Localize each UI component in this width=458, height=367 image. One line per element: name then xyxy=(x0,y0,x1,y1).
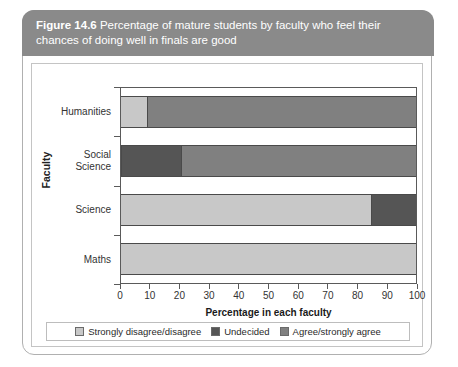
x-axis-tick-labels: 0102030405060708090100 xyxy=(120,290,417,304)
y-axis-label-social-science: SocialScience xyxy=(32,145,118,177)
figure-caption-banner: Figure 14.6 Percentage of mature student… xyxy=(22,10,434,56)
x-tick-label-90: 90 xyxy=(382,290,393,301)
bar-segment-science-series-0 xyxy=(121,195,371,225)
x-axis-title: Percentage in each faculty xyxy=(120,307,417,318)
bar-segment-humanities-series-2 xyxy=(147,97,416,127)
y-axis-label-science: Science xyxy=(32,194,118,226)
chart-container: Faculty Humanities SocialScience Science… xyxy=(31,63,423,347)
bar-humanities xyxy=(121,96,416,128)
x-tick-label-100: 100 xyxy=(409,290,426,301)
bar-segment-maths-series-0 xyxy=(121,244,416,274)
x-tick-label-80: 80 xyxy=(352,290,363,301)
bar-segment-social-science-series-1 xyxy=(121,146,181,176)
bar-maths xyxy=(121,243,416,275)
bar-segment-humanities-series-0 xyxy=(121,97,147,127)
legend-item-2: Agree/strongly agree xyxy=(280,326,381,337)
legend-label-1: Undecided xyxy=(224,326,269,337)
legend-swatch-icon-0 xyxy=(75,327,84,336)
legend-label-2: Agree/strongly agree xyxy=(293,326,381,337)
x-tick-60 xyxy=(298,284,299,289)
bar-social-science xyxy=(121,145,416,177)
x-tick-70 xyxy=(327,284,328,289)
x-tick-10 xyxy=(149,284,150,289)
bar-segment-science-series-1 xyxy=(371,195,416,225)
legend-item-0: Strongly disagree/disagree xyxy=(75,326,201,337)
x-tick-50 xyxy=(268,284,269,289)
chart-legend: Strongly disagree/disagreeUndecidedAgree… xyxy=(46,322,410,341)
figure-number: Figure 14.6 xyxy=(36,19,97,31)
x-tick-30 xyxy=(209,284,210,289)
x-tick-label-30: 30 xyxy=(204,290,215,301)
x-tick-20 xyxy=(179,284,180,289)
legend-item-1: Undecided xyxy=(211,326,269,337)
legend-swatch-icon-1 xyxy=(211,327,220,336)
legend-swatch-icon-2 xyxy=(280,327,289,336)
x-tick-100 xyxy=(417,284,418,289)
bar-science xyxy=(121,194,416,226)
figure-frame: Figure 14.6 Percentage of mature student… xyxy=(22,10,432,355)
x-axis-ticks xyxy=(120,284,417,289)
bar-series-group xyxy=(121,88,416,283)
x-tick-40 xyxy=(238,284,239,289)
x-tick-label-0: 0 xyxy=(117,290,123,301)
y-axis-label-maths: Maths xyxy=(32,243,118,275)
legend-label-0: Strongly disagree/disagree xyxy=(88,326,201,337)
x-tick-0 xyxy=(120,284,121,289)
plot-area xyxy=(120,87,417,284)
bar-segment-social-science-series-2 xyxy=(181,146,416,176)
y-axis-category-labels: Humanities SocialScience Science Maths xyxy=(32,87,118,284)
x-tick-label-40: 40 xyxy=(233,290,244,301)
x-tick-90 xyxy=(387,284,388,289)
x-tick-label-10: 10 xyxy=(144,290,155,301)
x-tick-label-60: 60 xyxy=(293,290,304,301)
x-tick-label-70: 70 xyxy=(322,290,333,301)
y-axis-label-humanities: Humanities xyxy=(32,96,118,128)
x-tick-label-50: 50 xyxy=(263,290,274,301)
x-tick-80 xyxy=(357,284,358,289)
x-tick-label-20: 20 xyxy=(174,290,185,301)
